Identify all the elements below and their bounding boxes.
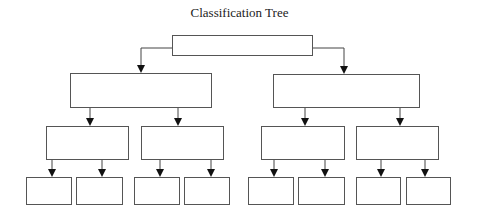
arrowhead-icon — [377, 169, 385, 177]
arrowhead-icon — [321, 169, 329, 177]
tree-node-L3h — [407, 178, 451, 205]
arrowhead-icon — [156, 169, 164, 177]
tree-node-L2c — [262, 127, 345, 160]
tree-edge — [141, 48, 172, 67]
tree-node-L3a — [27, 178, 72, 205]
arrowhead-icon — [270, 169, 278, 177]
tree-node-L2b — [142, 127, 224, 160]
arrowhead-icon — [301, 118, 309, 126]
arrowhead-icon — [48, 169, 56, 177]
tree-node-L3f — [299, 178, 345, 205]
arrowhead-icon — [174, 118, 182, 126]
tree-node-L3c — [135, 178, 180, 205]
arrowhead-icon — [421, 169, 429, 177]
tree-node-L2d — [357, 127, 439, 160]
tree-node-root — [173, 36, 313, 56]
tree-node-L3b — [77, 178, 123, 205]
arrowhead-icon — [98, 169, 106, 177]
tree-node-L3e — [249, 178, 294, 205]
arrowhead-icon — [137, 65, 145, 73]
tree-node-L1b — [274, 75, 420, 108]
classification-tree — [0, 0, 479, 216]
tree-node-L1a — [71, 74, 212, 108]
arrowhead-icon — [396, 118, 404, 126]
tree-node-L3g — [357, 178, 401, 205]
arrowhead-icon — [86, 118, 94, 126]
tree-node-L2a — [47, 127, 129, 160]
tree-node-L3d — [185, 178, 230, 205]
arrowhead-icon — [340, 66, 348, 74]
arrowhead-icon — [207, 169, 215, 177]
tree-edge — [312, 48, 344, 68]
